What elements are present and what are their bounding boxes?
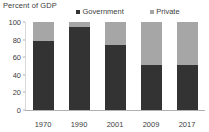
- x-axis-labels: 19701990200120092017: [25, 113, 205, 131]
- x-axis-label-slot: 2017: [169, 113, 205, 131]
- x-axis-tick-label: 2009: [143, 120, 160, 129]
- legend-swatch-private: [150, 10, 154, 14]
- y-axis-tick-label: 20: [13, 88, 21, 97]
- bar-segment-government[interactable]: [33, 41, 54, 110]
- x-axis-tick-label: 1970: [35, 120, 52, 129]
- bar-slot: [25, 22, 61, 110]
- bar-segment-government[interactable]: [105, 45, 126, 110]
- y-axis-tick-label: 60: [13, 53, 21, 62]
- x-axis-label-slot: 1990: [61, 113, 97, 131]
- bar-slot: [97, 22, 133, 110]
- y-axis-tick-label: 0: [17, 106, 21, 115]
- bar-slot: [133, 22, 169, 110]
- y-axis-tick-label: 80: [13, 35, 21, 44]
- x-axis-label-slot: 2009: [133, 113, 169, 131]
- legend-label-private: Private: [156, 7, 179, 16]
- x-axis-tick-label: 1990: [71, 120, 88, 129]
- y-axis-tick-label: 100: [8, 18, 21, 27]
- x-axis-label-slot: 1970: [25, 113, 61, 131]
- y-axis-tick-label: 40: [13, 70, 21, 79]
- stacked-bar[interactable]: [105, 22, 126, 110]
- bar-slot: [169, 22, 205, 110]
- stacked-bar[interactable]: [141, 22, 162, 110]
- bar-segment-private[interactable]: [141, 22, 162, 65]
- stacked-bar[interactable]: [33, 22, 54, 110]
- bar-segment-private[interactable]: [105, 22, 126, 45]
- bar-segment-government[interactable]: [141, 65, 162, 110]
- bar-slot: [61, 22, 97, 110]
- bar-segment-private[interactable]: [33, 22, 54, 41]
- stacked-bar[interactable]: [69, 22, 90, 110]
- chart-legend: Government Private: [76, 7, 180, 16]
- x-axis-line: [25, 110, 205, 111]
- chart-container: Percent of GDP Government Private 020406…: [0, 0, 209, 132]
- bar-segment-government[interactable]: [177, 65, 198, 110]
- legend-item-private: Private: [150, 7, 180, 16]
- legend-item-government: Government: [76, 7, 124, 16]
- bar-segment-government[interactable]: [69, 27, 90, 110]
- chart-title: Percent of GDP: [3, 1, 57, 10]
- bar-segment-private[interactable]: [177, 22, 198, 65]
- legend-swatch-government: [76, 10, 80, 14]
- plot-area: 020406080100: [25, 22, 205, 110]
- x-axis-tick-label: 2001: [107, 120, 124, 129]
- x-axis-label-slot: 2001: [97, 113, 133, 131]
- legend-label-government: Government: [83, 7, 124, 16]
- stacked-bar[interactable]: [177, 22, 198, 110]
- bar-group: [25, 22, 205, 110]
- x-axis-tick-label: 2017: [179, 120, 196, 129]
